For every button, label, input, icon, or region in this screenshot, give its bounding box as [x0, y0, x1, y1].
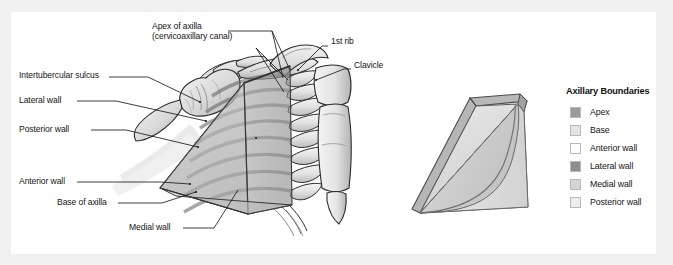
- label-anterior-wall: Anterior wall: [19, 176, 65, 186]
- legend-item-lateral-wall: Lateral wall: [566, 157, 649, 175]
- sternum: [314, 65, 351, 224]
- legend-label-apex: Apex: [590, 107, 610, 117]
- legend: Axillary Boundaries Apex Base Anterior w…: [566, 86, 649, 211]
- label-medial-wall: Medial wall: [129, 222, 170, 232]
- label-intertubercular-sulcus: Intertubercular sulcus: [19, 70, 99, 80]
- label-lateral-wall: Lateral wall: [19, 95, 61, 105]
- label-apex-of-axilla: Apex of axilla (cervicoaxillary canal): [152, 21, 272, 42]
- label-posterior-wall: Posterior wall: [19, 124, 69, 134]
- legend-label-medial-wall: Medial wall: [590, 179, 632, 189]
- pyramid-medial-wall: [244, 66, 292, 214]
- label-base-of-axilla: Base of axilla: [57, 197, 107, 207]
- legend-swatch-anterior-wall: [570, 143, 581, 154]
- legend-item-apex: Apex: [566, 103, 649, 121]
- legend-label-posterior-wall: Posterior wall: [590, 197, 641, 207]
- legend-swatch-apex: [570, 107, 581, 118]
- label-clavicle: Clavicle: [354, 60, 383, 70]
- legend-swatch-lateral-wall: [570, 161, 581, 172]
- legend-swatch-base: [570, 125, 581, 136]
- legend-item-base: Base: [566, 121, 649, 139]
- label-first-rib: 1st rib: [331, 36, 354, 46]
- legend-item-medial-wall: Medial wall: [566, 175, 649, 193]
- figure-root: Apex of axilla (cervicoaxillary canal) 1…: [0, 0, 673, 265]
- legend-item-posterior-wall: Posterior wall: [566, 193, 649, 211]
- axillary-pyramid-schematic: [412, 94, 528, 213]
- legend-label-lateral-wall: Lateral wall: [590, 161, 633, 171]
- legend-item-anterior-wall: Anterior wall: [566, 139, 649, 157]
- label-cervicoaxillary-canal: (cervicoaxillary canal): [152, 31, 232, 41]
- legend-title: Axillary Boundaries: [566, 86, 649, 96]
- legend-swatch-medial-wall: [570, 179, 581, 190]
- legend-label-anterior-wall: Anterior wall: [590, 143, 637, 153]
- label-apex-of-axilla-line1: Apex of axilla: [152, 21, 202, 31]
- legend-label-base: Base: [590, 125, 610, 135]
- legend-swatch-posterior-wall: [570, 197, 581, 208]
